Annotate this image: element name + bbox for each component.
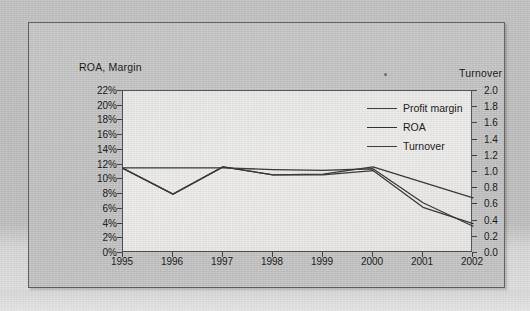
x-axis-tick-label: 1999 (311, 256, 333, 267)
scan-artifact-dot (384, 73, 387, 76)
scanned-page-background: ROA, Margin Turnover 22%20%18%16%14%12%1… (0, 0, 530, 311)
y-axis-tick-label: 18% (97, 114, 117, 125)
y2-axis-tick-label: 1.6 (484, 117, 498, 128)
legend-line-swatch (367, 146, 397, 147)
series-line-turnover (123, 168, 473, 226)
y-axis-tick-label: 2% (103, 232, 117, 243)
chart-legend: Profit margin ROA Turnover (367, 102, 463, 152)
y-axis-tick-label: 8% (103, 188, 117, 199)
x-axis-tick-label: 2000 (361, 256, 383, 267)
y-axis-tick-label: 20% (97, 99, 117, 110)
left-axis-title: ROA, Margin (79, 61, 142, 73)
legend-label: Profit margin (403, 102, 463, 114)
legend-line-swatch (367, 108, 397, 109)
y-axis-tick-label: 4% (103, 217, 117, 228)
x-axis-tick-label: 1995 (111, 256, 133, 267)
x-axis-tick-label: 1996 (161, 256, 183, 267)
y2-axis-tick-label: 1.2 (484, 149, 498, 160)
y-axis-tick-label: 6% (103, 202, 117, 213)
y2-axis-tick-label: 1.4 (484, 133, 498, 144)
y2-axis-tick-label: 2.0 (484, 85, 498, 96)
y2-axis-tick-label: 0.0 (484, 247, 498, 258)
y-axis-tick-label: 16% (97, 129, 117, 140)
chart-figure-frame: ROA, Margin Turnover 22%20%18%16%14%12%1… (28, 22, 505, 288)
y-axis-tick-label: 22% (97, 85, 117, 96)
y2-axis-tick-label: 0.8 (484, 182, 498, 193)
x-axis-tick-label: 2001 (411, 256, 433, 267)
x-axis-tick-label: 1998 (261, 256, 283, 267)
right-axis-tick-labels: 2.01.81.61.41.21.00.80.60.40.20.0 (484, 90, 528, 252)
legend-label: Turnover (403, 140, 445, 152)
y-axis-tick-label: 10% (97, 173, 117, 184)
left-axis-tick-labels: 22%20%18%16%14%12%10%8%6%4%2%0% (73, 90, 117, 252)
x-axis-tick-labels: 19951996199719981999200020012002 (122, 256, 472, 276)
right-axis-title: Turnover (459, 67, 502, 79)
y2-axis-tick-label: 1.8 (484, 101, 498, 112)
series-line-roa (123, 167, 473, 224)
legend-item-roa: ROA (367, 121, 463, 133)
x-axis-tick-label: 2002 (461, 256, 483, 267)
legend-line-swatch (367, 127, 397, 128)
page-bottom-strip (0, 290, 530, 311)
y2-axis-tick-label: 0.6 (484, 198, 498, 209)
y-axis-tick-label: 12% (97, 158, 117, 169)
legend-item-turnover: Turnover (367, 140, 463, 152)
legend-item-profit-margin: Profit margin (367, 102, 463, 114)
y2-axis-tick-label: 0.2 (484, 230, 498, 241)
legend-label: ROA (403, 121, 426, 133)
y2-axis-tick-label: 1.0 (484, 166, 498, 177)
y-axis-tick-label: 14% (97, 143, 117, 154)
x-axis-tick-label: 1997 (211, 256, 233, 267)
y2-axis-tick-label: 0.4 (484, 214, 498, 225)
